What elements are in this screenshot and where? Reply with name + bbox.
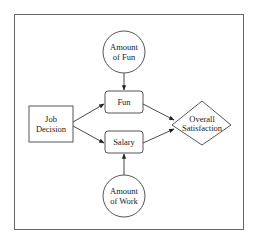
node-label-line2: of Work — [110, 196, 138, 206]
node-fun: Fun — [105, 91, 143, 113]
node-label-line2: Decision — [36, 124, 67, 134]
node-salary: Salary — [105, 131, 143, 153]
node-label-line1: Amount — [110, 42, 139, 52]
node-label-line2: of Fun — [113, 52, 136, 62]
edges — [73, 73, 174, 175]
node-label-line2: Satisfaction — [182, 123, 223, 133]
edge-salary-to-overall-satisfaction — [143, 129, 174, 143]
influence-diagram: Amount of Fun Fun Job Decision Salary Ov… — [0, 0, 258, 243]
node-amount-of-fun: Amount of Fun — [103, 31, 145, 73]
node-label-line1: Amount — [110, 186, 139, 196]
node-job-decision: Job Decision — [29, 106, 73, 142]
node-amount-of-work: Amount of Work — [103, 175, 145, 217]
node-label-line1: Job — [45, 114, 57, 124]
node-label: Fun — [117, 97, 131, 107]
node-label: Salary — [113, 137, 135, 147]
edge-job-decision-to-salary — [73, 126, 104, 143]
edge-job-decision-to-fun — [73, 104, 104, 122]
edge-fun-to-overall-satisfaction — [143, 104, 174, 120]
node-overall-satisfaction: Overall Satisfaction — [172, 101, 231, 145]
